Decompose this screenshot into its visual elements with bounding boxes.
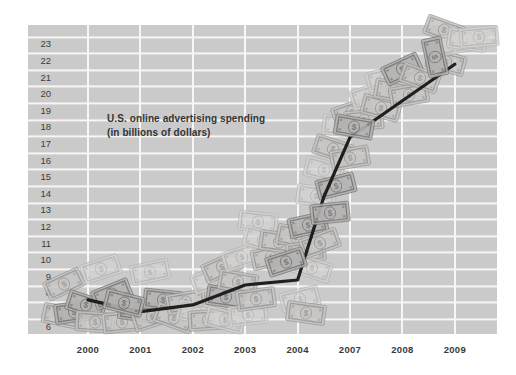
- y-axis-label: 12: [28, 219, 51, 235]
- chart-title: U.S. online advertising spending (in bil…: [107, 112, 265, 139]
- x-axis-label: 2004: [276, 344, 320, 358]
- y-axis-label: 10: [28, 252, 51, 268]
- y-axis-label: 7: [28, 302, 51, 318]
- y-axis-label: 20: [28, 86, 51, 102]
- y-axis-label: 8: [28, 285, 51, 301]
- vertical-gridlines: [87, 25, 497, 334]
- y-axis-label: 9: [28, 269, 51, 285]
- chart-title-line1: U.S. online advertising spending: [107, 112, 265, 126]
- x-axis-label: 2008: [380, 344, 424, 358]
- chart: U.S. online advertising spending (in bil…: [0, 0, 516, 375]
- y-axis-label: 14: [28, 186, 51, 202]
- x-axis-label: 2009: [433, 344, 477, 358]
- y-axis-label: 21: [28, 70, 51, 86]
- y-axis-label: 16: [28, 153, 51, 169]
- y-axis-label: 23: [28, 36, 51, 52]
- y-axis-label: 19: [28, 103, 51, 119]
- chart-title-line2: (in billions of dollars): [107, 126, 265, 140]
- y-axis-label: 6: [28, 319, 51, 335]
- x-axis-label: 2007: [328, 344, 372, 358]
- y-axis-label: 17: [28, 136, 51, 152]
- x-axis-label: 2000: [66, 344, 110, 358]
- y-axis-label: 22: [28, 53, 51, 69]
- x-axis-label: 2003: [223, 344, 267, 358]
- x-axis-label: 2002: [171, 344, 215, 358]
- y-axis-label: 11: [28, 236, 51, 252]
- x-axis-label: 2001: [118, 344, 162, 358]
- y-axis-label: 15: [28, 169, 51, 185]
- y-axis-label: 13: [28, 202, 51, 218]
- y-axis-label: 18: [28, 119, 51, 135]
